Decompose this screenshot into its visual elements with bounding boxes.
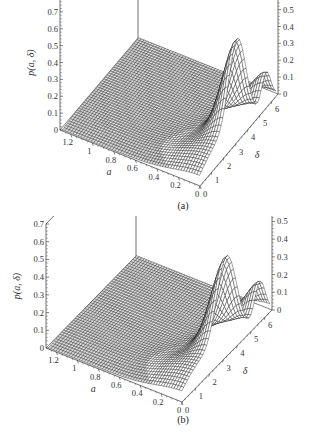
svg-text:1.2: 1.2 bbox=[48, 355, 59, 365]
svg-text:4: 4 bbox=[251, 132, 256, 142]
svg-text:1: 1 bbox=[215, 175, 219, 185]
svg-text:0.3: 0.3 bbox=[277, 252, 288, 262]
svg-text:0: 0 bbox=[195, 189, 199, 199]
surface-plot-a: 000.10.10.20.20.30.30.40.40.50.50.60.60.… bbox=[0, 0, 312, 216]
svg-text:0.2: 0.2 bbox=[33, 308, 44, 318]
svg-text:0: 0 bbox=[277, 305, 281, 315]
a-axis-label: a bbox=[91, 383, 96, 394]
svg-text:0.3: 0.3 bbox=[33, 290, 44, 300]
caption-b: (b) bbox=[163, 414, 203, 425]
svg-text:4: 4 bbox=[240, 348, 245, 358]
svg-text:0.5: 0.5 bbox=[33, 254, 44, 264]
svg-text:0: 0 bbox=[40, 343, 44, 353]
svg-text:0.2: 0.2 bbox=[283, 55, 294, 65]
z-axis-label: p(a, δ) bbox=[25, 49, 37, 77]
svg-text:6: 6 bbox=[268, 320, 272, 330]
svg-text:3: 3 bbox=[239, 147, 243, 157]
surface-plot-b-canvas: 000.10.10.20.20.30.30.40.40.50.50.60.60.… bbox=[0, 216, 312, 432]
svg-text:0.7: 0.7 bbox=[47, 7, 58, 17]
svg-text:0.5: 0.5 bbox=[47, 41, 58, 51]
svg-text:6: 6 bbox=[275, 104, 279, 114]
svg-text:0.4: 0.4 bbox=[47, 58, 58, 68]
surface-mesh bbox=[48, 256, 269, 392]
svg-text:0.4: 0.4 bbox=[33, 272, 44, 282]
svg-text:2: 2 bbox=[227, 161, 231, 171]
z-axis-label: p(a, δ) bbox=[11, 272, 23, 300]
svg-text:0.3: 0.3 bbox=[283, 38, 294, 48]
svg-text:0.4: 0.4 bbox=[149, 172, 160, 182]
svg-text:1.2: 1.2 bbox=[62, 137, 73, 147]
svg-text:0.6: 0.6 bbox=[33, 237, 44, 247]
svg-text:5: 5 bbox=[263, 118, 267, 128]
svg-text:1: 1 bbox=[199, 391, 203, 401]
a-axis-label: a bbox=[107, 166, 112, 177]
svg-text:0.5: 0.5 bbox=[277, 216, 288, 226]
svg-text:0: 0 bbox=[283, 89, 287, 99]
svg-text:0.4: 0.4 bbox=[283, 22, 294, 32]
svg-text:0.2: 0.2 bbox=[153, 397, 164, 407]
svg-text:0.2: 0.2 bbox=[170, 180, 181, 190]
svg-text:0.1: 0.1 bbox=[33, 325, 44, 335]
svg-text:0: 0 bbox=[203, 189, 207, 199]
svg-text:0.8: 0.8 bbox=[90, 372, 101, 382]
svg-text:1: 1 bbox=[87, 146, 91, 156]
svg-text:0.4: 0.4 bbox=[277, 234, 288, 244]
svg-text:3: 3 bbox=[226, 363, 230, 373]
svg-text:0: 0 bbox=[54, 125, 58, 135]
svg-text:0.8: 0.8 bbox=[106, 155, 117, 165]
svg-text:2: 2 bbox=[213, 377, 217, 387]
svg-text:0.7: 0.7 bbox=[33, 219, 44, 229]
svg-text:5: 5 bbox=[254, 334, 258, 344]
svg-text:0.1: 0.1 bbox=[47, 108, 58, 118]
svg-text:0.4: 0.4 bbox=[132, 388, 143, 398]
delta-axis-label: δ bbox=[255, 149, 260, 160]
svg-text:0.6: 0.6 bbox=[47, 24, 58, 34]
svg-text:1: 1 bbox=[72, 363, 76, 373]
svg-text:0.1: 0.1 bbox=[283, 72, 294, 82]
caption-a: (a) bbox=[163, 200, 203, 211]
svg-text:0.6: 0.6 bbox=[127, 163, 138, 173]
svg-text:0.5: 0.5 bbox=[283, 5, 294, 15]
svg-text:0.2: 0.2 bbox=[277, 270, 288, 280]
surface-plot-b: 000.10.10.20.20.30.30.40.40.50.50.60.60.… bbox=[0, 216, 312, 432]
svg-text:0.1: 0.1 bbox=[277, 287, 288, 297]
surface-mesh bbox=[62, 38, 276, 176]
svg-text:0.6: 0.6 bbox=[111, 380, 122, 390]
svg-text:0.2: 0.2 bbox=[47, 91, 58, 101]
delta-axis-label: δ bbox=[243, 365, 248, 376]
surface-plot-a-canvas: 000.10.10.20.20.30.30.40.40.50.50.60.60.… bbox=[0, 0, 312, 216]
svg-text:0.3: 0.3 bbox=[47, 74, 58, 84]
